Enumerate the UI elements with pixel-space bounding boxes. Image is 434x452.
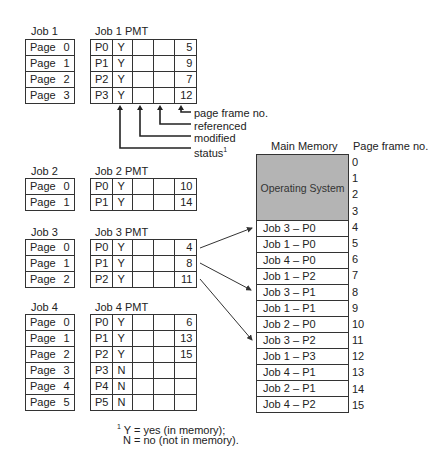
job3-mapping-arrows bbox=[200, 228, 252, 340]
connector-arrows bbox=[0, 0, 434, 452]
column-callout-lines bbox=[120, 107, 191, 148]
